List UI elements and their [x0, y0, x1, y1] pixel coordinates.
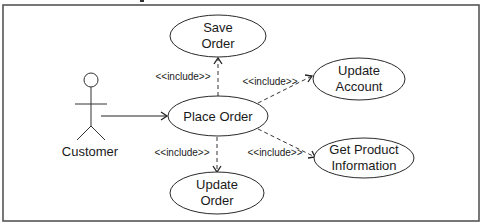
actor-label: Customer: [62, 144, 119, 159]
use-case-label-line-2: Order: [200, 193, 234, 208]
use-case-label-line-1: Get Product: [329, 142, 399, 157]
include-label: <<include>>: [155, 71, 210, 82]
use-case-label-line-2: Information: [331, 158, 396, 173]
use-case-get-product-information[interactable]: Get Product Information: [314, 138, 414, 178]
use-case-diagram: Customer <<include>> <<include>> <<inclu…: [0, 0, 482, 224]
use-case-label-line-1: Update: [196, 177, 238, 192]
use-case-label-line-1: Save: [203, 20, 233, 35]
use-case-save-order[interactable]: Save Order: [170, 15, 266, 57]
use-case-label-line-2: Account: [336, 79, 383, 94]
actor-head: [84, 73, 98, 87]
include-label: <<include>>: [242, 76, 297, 87]
use-case-label-line-2: Order: [201, 36, 235, 51]
cut-off-title-fragment: [140, 0, 144, 2]
include-label: <<include>>: [247, 147, 302, 158]
include-label: <<include>>: [154, 147, 209, 158]
use-case-update-order[interactable]: Update Order: [170, 172, 264, 214]
use-case-label: Place Order: [183, 109, 253, 124]
use-case-update-account[interactable]: Update Account: [313, 58, 405, 100]
use-case-place-order[interactable]: Place Order: [168, 96, 268, 136]
use-case-label-line-1: Update: [338, 63, 380, 78]
